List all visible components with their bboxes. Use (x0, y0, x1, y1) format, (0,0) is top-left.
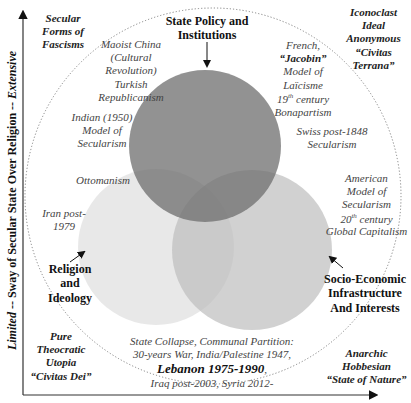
example-american: American Model of Secularism 20th centur… (322, 172, 411, 239)
label-line: Maoist China (92, 38, 170, 51)
label-part: 19 (277, 92, 288, 104)
label-line: Fascisms (30, 38, 96, 51)
y-axis-low: Limited (5, 312, 19, 350)
label-line: Indian (1950) (62, 111, 142, 124)
label-line: Forms of (30, 25, 96, 38)
label-part: century (357, 212, 393, 224)
label-part: Lebanon 1975-1990 (157, 361, 264, 376)
label-line: 30-years War, India/Palestine 1947, (118, 348, 306, 361)
label-line: Swiss post-1848 (287, 125, 377, 138)
label-line: 20th century (322, 212, 411, 226)
example-french-jacobin: French, “Jacobin” Model of Laïcisme 19th… (268, 39, 338, 119)
religion-label: Religion and Ideology (38, 262, 102, 305)
label-line: Bonapartism (268, 106, 338, 119)
label-line: Ottomanism (63, 174, 143, 187)
socio-economic-label: Socio-Economic Infrastructure And Intere… (320, 272, 410, 315)
label-line: Iraq post-2003, Syria 2012- (118, 377, 306, 390)
label-line: Turkish (92, 78, 170, 91)
label-line: and (38, 276, 102, 290)
example-indian: Indian (1950) Model of Secularism (62, 111, 142, 151)
label-line: Religion (38, 262, 102, 276)
label-line: Laïcisme (268, 79, 338, 92)
label-line: Revolution) (92, 64, 170, 77)
label-line: Secularism (287, 138, 377, 151)
corner-top-left: Secular Forms of Fascisms (30, 12, 96, 52)
label-line: Global Capitalism (322, 225, 411, 238)
label-line: State Policy and (160, 14, 254, 28)
label-line: Model of (268, 65, 338, 78)
label-line: Anarchic (322, 347, 411, 360)
label-line: 19th century (268, 92, 338, 106)
y-axis-label: Limited -- Sway of Secular State Over Re… (5, 31, 20, 371)
label-line: Model of (62, 124, 142, 137)
label-line: French, (268, 39, 338, 52)
y-axis-sep: -- (5, 298, 19, 312)
corner-bottom-right: Anarchic Hobbesian “State of Nature” (322, 347, 411, 387)
label-line: “State of Nature” (322, 373, 411, 386)
example-ottomanism: Ottomanism (63, 174, 143, 187)
corner-top-right: Iconoclast Ideal Anonymous “Civitas Terr… (336, 6, 411, 72)
label-part: century (293, 92, 329, 104)
example-maoist-turkish: Maoist China (Cultural Revolution) Turki… (92, 38, 170, 104)
label-line: 1979 (34, 220, 94, 233)
label-line: Institutions (160, 28, 254, 42)
label-line: Lebanon 1975-1990, (118, 361, 306, 377)
y-axis-high: Extensive (5, 51, 19, 99)
label-line: Iconoclast (336, 6, 411, 19)
label-line: And Interests (320, 301, 410, 315)
label-line: Hobbesian (322, 360, 411, 373)
label-line: Secularism (62, 137, 142, 150)
label-line: Secular (30, 12, 96, 25)
label-line: Ideal (336, 19, 411, 32)
label-line: “Civitas Dei” (26, 370, 96, 383)
label-line: Ideology (38, 291, 102, 305)
y-axis-title: Sway of Secular State Over Religion (5, 113, 19, 298)
example-swiss: Swiss post-1848 Secularism (287, 125, 377, 151)
label-line: Secularism (322, 198, 411, 211)
example-iran: Iran post- 1979 (34, 207, 94, 233)
label-line: Pure (26, 330, 96, 343)
example-state-collapse: State Collapse, Communal Partition: 30-y… (118, 335, 306, 390)
label-line: Utopia (26, 356, 96, 369)
socio-arrow (330, 257, 343, 268)
label-line: Terrana” (336, 59, 411, 72)
state-policy-label: State Policy and Institutions (160, 14, 254, 43)
label-line: Iran post- (34, 207, 94, 220)
corner-bottom-left: Pure Theocratic Utopia “Civitas Dei” (26, 330, 96, 383)
label-part: , (264, 363, 267, 375)
label-line: Socio-Economic (320, 272, 410, 286)
label-line: Model of (322, 185, 411, 198)
label-line: “Jacobin” (268, 52, 338, 65)
label-line: Theocratic (26, 343, 96, 356)
label-line: American (322, 172, 411, 185)
label-part: 20 (340, 212, 351, 224)
label-line: Infrastructure (320, 286, 410, 300)
label-line: State Collapse, Communal Partition: (118, 335, 306, 348)
y-axis-sep: -- (5, 99, 19, 113)
label-line: (Cultural (92, 51, 170, 64)
label-line: “Civitas (336, 46, 411, 59)
label-line: Anonymous (336, 32, 411, 45)
label-line: Republicanism (92, 91, 170, 104)
